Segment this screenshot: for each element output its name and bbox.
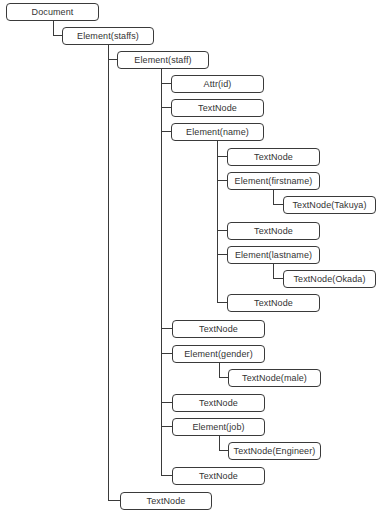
node-textnode: TextNode <box>172 467 265 485</box>
connector <box>217 302 227 303</box>
node-textnode: TextNode <box>172 394 265 412</box>
node-element-firstname: Element(firstname) <box>227 172 320 190</box>
dom-tree-diagram: Document Element(staffs) Element(staff) … <box>0 0 384 516</box>
node-attr-id: Attr(id) <box>171 75 264 93</box>
node-textnode-takuya: TextNode(Takuya) <box>283 196 376 214</box>
connector <box>161 107 171 108</box>
connector <box>161 131 171 132</box>
connector <box>108 59 117 60</box>
connector <box>53 21 54 36</box>
connector <box>161 426 172 427</box>
node-element-name: Element(name) <box>171 123 264 141</box>
connector <box>273 278 283 279</box>
connector <box>161 83 171 84</box>
connector <box>219 450 228 451</box>
connector <box>217 156 227 157</box>
connector <box>217 254 227 255</box>
connector <box>273 264 274 279</box>
node-textnode: TextNode <box>227 222 320 240</box>
node-textnode: TextNode <box>172 320 265 338</box>
node-textnode: TextNode <box>227 148 320 166</box>
node-element-lastname: Element(lastname) <box>227 246 320 264</box>
connector <box>108 45 109 501</box>
node-document: Document <box>6 3 99 21</box>
connector <box>217 180 227 181</box>
connector <box>161 402 172 403</box>
node-textnode-engineer: TextNode(Engineer) <box>228 442 321 460</box>
node-element-staff: Element(staff) <box>117 51 209 69</box>
connector <box>219 377 228 378</box>
connector <box>273 190 274 205</box>
node-element-gender: Element(gender) <box>172 345 265 363</box>
node-textnode-male: TextNode(male) <box>228 369 321 387</box>
connector <box>161 475 172 476</box>
node-textnode: TextNode <box>120 492 212 510</box>
node-element-job: Element(job) <box>172 418 265 436</box>
connector <box>108 500 120 501</box>
node-element-staffs: Element(staffs) <box>62 27 154 45</box>
connector <box>217 141 218 303</box>
connector <box>273 204 283 205</box>
connector <box>219 436 220 451</box>
connector <box>161 353 172 354</box>
connector <box>217 230 227 231</box>
node-textnode: TextNode <box>171 99 264 117</box>
node-textnode: TextNode <box>227 294 320 312</box>
node-textnode-okada: TextNode(Okada) <box>283 270 376 288</box>
connector <box>53 35 62 36</box>
connector <box>161 328 172 329</box>
connector <box>219 363 220 378</box>
